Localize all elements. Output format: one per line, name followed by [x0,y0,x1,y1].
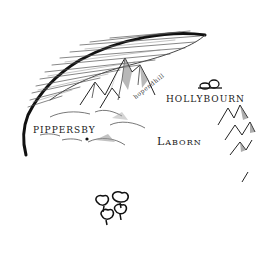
place-label-laborn: Laborn [157,135,202,148]
place-label-pippersby: pippersby [33,121,96,136]
stones-icon [198,80,222,89]
town-marker-icon [85,137,88,140]
eastern-mountains-icon [218,105,255,182]
trees-icon [96,192,128,225]
place-label-hollybourn: hollybourn [166,90,245,105]
central-mountains-icon [80,58,155,108]
